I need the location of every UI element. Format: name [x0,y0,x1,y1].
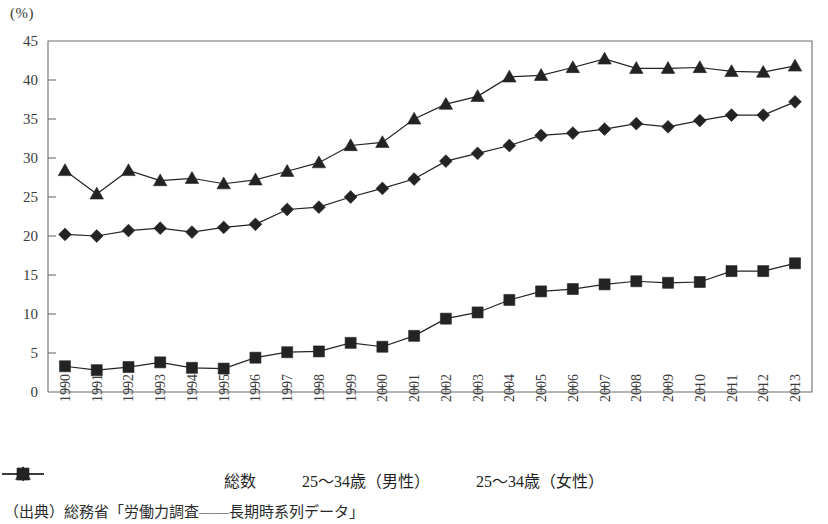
data-point-marker [694,277,705,288]
legend-item[interactable]: 総数 [224,468,256,492]
x-tick-label: 2004 [502,374,517,402]
data-point-marker [439,155,452,168]
legend-label: 総数 [224,468,256,492]
x-tick-label: 2008 [629,374,644,402]
data-point-marker [567,284,578,295]
chart-legend: 総数25〜34歳（男性）25〜34歳（女性） [0,463,828,497]
data-point-marker [661,62,674,74]
x-tick-label: 2005 [534,374,549,402]
x-tick-label: 1998 [312,374,327,402]
data-point-marker [186,362,197,373]
data-point-marker [408,173,421,186]
chart-figure: (%) 051015202530354045199019911992199319… [0,0,828,524]
x-tick-label: 2000 [375,374,390,402]
x-tick-label: 2003 [471,374,486,402]
data-point-marker [91,365,102,376]
x-tick-label: 2011 [725,375,740,402]
data-point-marker [440,313,451,324]
y-tick-label: 45 [23,33,38,49]
data-point-marker [344,191,357,204]
x-tick-label: 1995 [217,374,232,402]
data-point-marker [312,156,325,168]
data-point-marker [185,172,198,184]
data-point-marker [598,52,611,64]
data-point-marker [250,352,261,363]
x-tick-label: 1997 [280,374,295,402]
data-point-marker [599,279,610,290]
data-point-marker [154,222,167,235]
data-point-marker [788,59,801,71]
source-note: （出典）総務省「労働力調査——長期時系列データ」 [4,500,364,521]
y-tick-label: 20 [23,228,38,244]
data-point-marker [281,203,294,216]
data-point-marker [504,294,515,305]
data-point-marker [282,347,293,358]
data-point-marker [662,120,675,133]
data-point-marker [90,230,103,243]
data-point-marker [249,218,262,231]
y-tick-label: 0 [31,384,39,400]
data-point-marker [376,182,389,195]
y-tick-label: 15 [23,267,38,283]
y-tick-label: 5 [31,345,39,361]
data-point-marker [598,123,611,136]
data-point-marker [186,226,199,239]
x-tick-label: 1992 [121,374,136,402]
legend-item[interactable]: 25〜34歳（女性） [476,468,604,492]
data-point-marker [58,164,71,176]
x-tick-label: 2010 [693,374,708,402]
chart-frame [48,41,812,392]
series-line [65,263,795,370]
triangle-marker-icon [0,463,46,485]
data-point-marker [471,147,484,160]
data-point-marker [376,136,389,148]
data-point-marker [313,201,326,214]
data-point-marker [630,117,643,130]
legend-label: 25〜34歳（男性） [302,468,430,492]
x-tick-label: 2007 [598,374,613,402]
data-point-marker [59,361,70,372]
y-tick-label: 40 [23,72,38,88]
data-point-marker [725,109,738,122]
x-tick-label: 1994 [185,374,200,402]
series-triangle [58,52,801,199]
x-tick-label: 1990 [58,374,73,402]
data-point-marker [90,187,103,199]
data-point-marker [313,346,324,357]
data-point-marker [155,357,166,368]
x-tick-label: 2006 [566,374,581,402]
data-point-marker [631,276,642,287]
data-point-marker [123,362,134,373]
x-tick-label: 2009 [661,374,676,402]
data-point-marker [693,61,706,73]
legend-item[interactable]: 25〜34歳（男性） [302,468,430,492]
data-point-marker [59,228,72,241]
x-tick-label: 1993 [153,374,168,402]
series-square [59,258,800,376]
data-point-marker [535,129,548,142]
data-point-marker [789,95,802,108]
series-line [65,102,795,236]
data-point-marker [377,341,388,352]
x-tick-label: 2002 [439,374,454,402]
y-tick-label: 25 [23,189,38,205]
series-diamond [59,95,802,242]
data-point-marker [757,109,770,122]
data-point-marker [472,307,483,318]
x-tick-label: 1991 [90,374,105,402]
data-point-marker [503,139,516,152]
data-point-marker [758,266,769,277]
y-tick-label: 10 [23,306,38,322]
x-tick-label: 1999 [344,374,359,402]
data-point-marker [566,127,579,140]
data-point-marker [122,164,135,176]
x-tick-label: 2013 [788,374,803,402]
legend-label: 25〜34歳（女性） [476,468,604,492]
data-point-marker [663,277,674,288]
chart-plot-area: 0510152025303540451990199119921993199419… [0,0,828,460]
data-point-marker [122,224,135,237]
data-point-marker [217,221,230,234]
data-point-marker [693,114,706,127]
data-point-marker [726,266,737,277]
data-point-marker [536,286,547,297]
